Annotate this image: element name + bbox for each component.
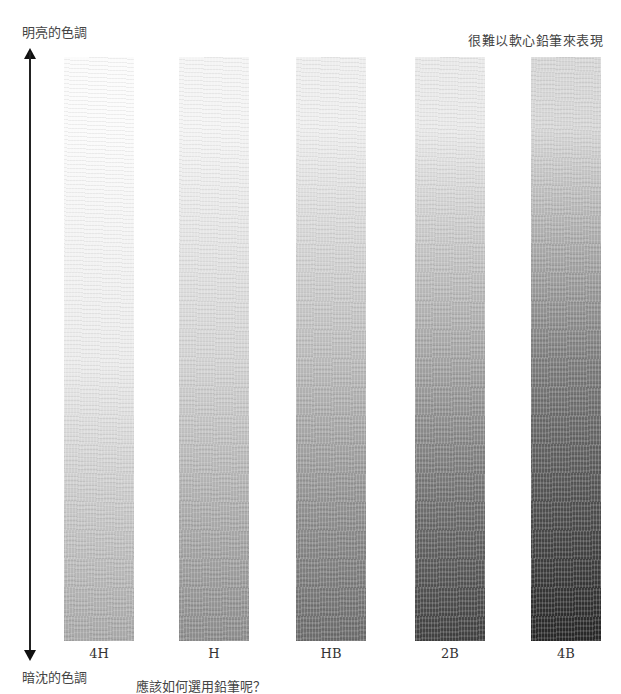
pencil-texture	[64, 57, 134, 641]
pencil-strip-2b	[415, 57, 485, 641]
pencil-texture	[296, 57, 366, 641]
pencil-strip-hb	[296, 57, 366, 641]
pencil-texture	[415, 57, 485, 641]
pencil-texture	[179, 57, 249, 641]
pencil-strip-h	[179, 57, 249, 641]
tone-scale-arrow	[29, 52, 31, 658]
grade-label: HB	[296, 646, 366, 661]
arrow-down-icon	[24, 650, 36, 661]
question-caption: 應該如何選用鉛筆呢？	[136, 676, 266, 694]
soft-pencil-note: 很難以軟心鉛筆來表現	[468, 30, 603, 49]
grade-label: 2B	[415, 646, 485, 661]
pencil-strip-4b	[531, 57, 601, 641]
grade-label: H	[179, 646, 249, 661]
pencil-texture	[531, 57, 601, 641]
dark-tone-label: 暗沈的色調	[22, 667, 87, 686]
pencil-strip-4h	[64, 57, 134, 641]
grade-label: 4B	[531, 646, 601, 661]
grade-label: 4H	[64, 646, 134, 661]
bright-tone-label: 明亮的色調	[22, 22, 87, 41]
